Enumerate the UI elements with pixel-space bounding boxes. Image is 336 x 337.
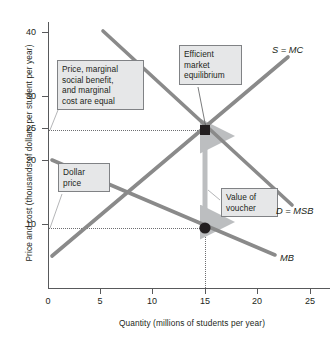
callout-dollar-line2: price — [63, 178, 105, 189]
curve-label-marginal-benefit: MB — [280, 253, 294, 263]
x-axis-label: Quantity (millions of students per year) — [48, 318, 336, 328]
dollar-price-marker — [199, 222, 210, 233]
callout-voucher-line1: Value of — [226, 192, 273, 203]
callout-price-line4: cost are equal — [62, 96, 139, 107]
curve-label-supply-mc: S = MC — [272, 45, 303, 55]
leader-line-value-of-voucher — [208, 190, 220, 200]
callout-price-line3: and marginal — [62, 85, 139, 96]
callout-voucher-line2: voucher — [226, 203, 273, 214]
callout-efficient-market-equilibrium: Efficient market equilibrium — [179, 45, 242, 85]
callout-efficient-line3: equilibrium — [184, 70, 237, 81]
callout-value-of-voucher: Value of voucher — [221, 188, 278, 217]
efficient-equilibrium-marker — [200, 125, 210, 135]
leader-line-dollar-price — [50, 194, 62, 228]
callout-price-msb-mc-equal: Price, marginal social benefit, and marg… — [57, 60, 144, 110]
callout-dollar-line1: Dollar — [63, 167, 105, 178]
callout-price-line2: social benefit, — [62, 75, 139, 86]
callout-price-line1: Price, marginal — [62, 64, 139, 75]
callout-dollar-price: Dollar price — [58, 163, 110, 192]
economics-chart-figure: Price and cost (thousands of dollars per… — [0, 0, 336, 337]
callout-efficient-line2: market — [184, 60, 237, 71]
curve-label-demand-msb: D = MSB — [276, 206, 313, 216]
callout-efficient-line1: Efficient — [184, 49, 237, 60]
